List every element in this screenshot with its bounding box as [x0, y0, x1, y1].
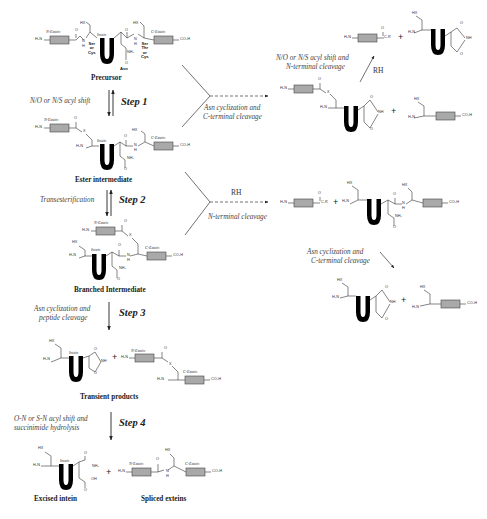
- plus-sign: +: [398, 33, 403, 42]
- c-extein-box: [154, 36, 173, 44]
- h2n-label: H₂N: [35, 126, 42, 130]
- nh2-label: NH₂: [127, 51, 134, 55]
- h2n-label: H₂N: [320, 106, 327, 110]
- intein-u-icon: [92, 254, 106, 280]
- o-label: O: [460, 22, 463, 26]
- diagram-canvas: [0, 0, 487, 519]
- hx-label: HX: [402, 184, 407, 188]
- o-label: O: [124, 135, 127, 139]
- h2n-label: H₂N: [280, 201, 287, 205]
- o-label: O: [118, 244, 121, 248]
- top-up-label-line2: N-terminal cleavage: [286, 64, 345, 71]
- top-branch-label-line1: Asn cyclization and: [204, 105, 260, 112]
- o-label: O: [381, 27, 384, 31]
- hx-label: HX: [412, 12, 417, 16]
- o-label: O: [393, 226, 396, 230]
- h2n-label: H₂N: [332, 296, 339, 300]
- intein-label: Intein: [60, 459, 69, 463]
- c-extein-label: C-Extein: [145, 246, 159, 250]
- n-extein-label: N-Extein: [46, 30, 60, 34]
- o-label: O: [156, 458, 159, 462]
- n-extein-label: N-Extein: [131, 349, 145, 353]
- hx-label: HX: [49, 340, 54, 344]
- h-label: H: [134, 43, 137, 47]
- co2h-label: CO₂H: [211, 378, 221, 382]
- co2h-label: CO₂H: [212, 470, 222, 474]
- nh2-label: NH₂: [92, 465, 99, 469]
- step3-label: Step 3: [119, 308, 146, 319]
- o-label: O: [370, 96, 373, 100]
- o-label: O: [318, 192, 321, 196]
- intein-u-icon: [59, 464, 73, 490]
- cr-label: C-R: [384, 36, 391, 40]
- hx-label: HX: [72, 241, 77, 245]
- nh-label: NH: [378, 111, 383, 115]
- h2n-label: H₂N: [118, 470, 125, 474]
- intein-u-icon: [431, 29, 445, 55]
- h2n-label: H₂N: [342, 200, 349, 204]
- h2n-label: H₂N: [121, 356, 128, 360]
- intein-label: Intein: [97, 139, 106, 143]
- intein-u-icon: [367, 199, 381, 225]
- o-label: O: [125, 29, 128, 33]
- cr-label: C-R: [321, 201, 328, 205]
- h-label: H: [402, 207, 405, 211]
- o-label: O: [75, 29, 78, 33]
- plus-sign: +: [333, 198, 338, 207]
- hx-label: HX: [414, 98, 419, 102]
- x-label: X: [129, 234, 132, 238]
- branch-lines: [182, 56, 394, 268]
- step2-description: Transesterification: [40, 197, 94, 204]
- hx-label: HX: [347, 182, 352, 186]
- intein-label: Intein: [69, 351, 78, 355]
- step4-description-line1: O-N or S-N acyl shift and: [14, 416, 88, 423]
- step3-description-line2: peptide cleavage: [39, 315, 88, 322]
- x-label: X: [169, 363, 172, 367]
- hx-label: HX: [80, 22, 85, 26]
- hx-label: HX: [420, 286, 425, 290]
- o-label: O: [393, 193, 396, 197]
- plus-sign: +: [401, 296, 406, 305]
- h2n-label: H₂N: [344, 36, 351, 40]
- plus-sign: +: [112, 353, 117, 362]
- step1-label: Step 1: [121, 97, 148, 108]
- h2n-label: H₂N: [76, 145, 83, 149]
- o-label: O: [124, 168, 127, 172]
- n-extein-label: N-Extein: [129, 462, 143, 466]
- rh-reagent-top: RH: [373, 67, 383, 75]
- intein-u-icon: [69, 356, 83, 382]
- o-label: O: [370, 128, 373, 132]
- asn-label: Asn: [120, 67, 128, 71]
- hx-label: HX: [165, 449, 170, 453]
- h-label: H: [134, 149, 137, 153]
- o-label: O: [385, 286, 388, 290]
- ester-title: Ester intermediate: [75, 177, 132, 184]
- h2n-label: H₂N: [408, 116, 415, 120]
- h-label: H: [82, 45, 85, 49]
- transient-title: Transient products: [80, 394, 138, 401]
- o-label: O: [460, 53, 463, 57]
- hx-label: HX: [133, 22, 138, 26]
- ser-thr-cys-label: SerThrorCys: [141, 42, 149, 60]
- nh2-label: NH₂: [395, 215, 402, 219]
- o-label: O: [318, 78, 321, 82]
- o-label: O: [84, 452, 87, 456]
- middle-down-label-line1: Asn cyclization and: [307, 249, 363, 256]
- plus-sign: +: [391, 107, 396, 116]
- co2h-label: CO₂H: [180, 38, 190, 42]
- c-extein-label: C-Extein: [183, 370, 197, 374]
- hx-label: HX: [38, 447, 43, 451]
- x-label: X: [327, 91, 330, 95]
- intein-u-icon: [100, 38, 114, 64]
- nh-label: NH: [101, 360, 106, 364]
- step4-description-line2: succinimide hydrolysis: [14, 425, 79, 432]
- step2-label: Step 2: [119, 195, 146, 206]
- h-label: H: [127, 259, 130, 263]
- excised-intein-title: Excised intein: [34, 496, 77, 503]
- h2n-label: H₂N: [412, 306, 419, 310]
- intein-u-icon: [356, 296, 370, 322]
- h2n-label: H₂N: [33, 464, 40, 468]
- intein-u-icon: [100, 144, 114, 170]
- o-label: O: [84, 489, 87, 493]
- o-label: O: [94, 372, 97, 376]
